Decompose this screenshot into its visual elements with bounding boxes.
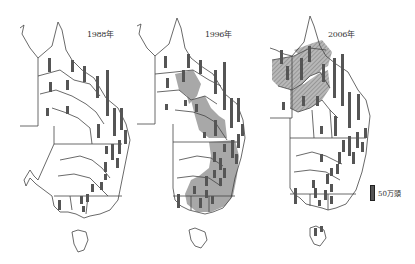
map-1988 <box>0 0 138 264</box>
year-label-2006: 2006年 <box>328 28 355 39</box>
map-panel-1988: 1988年 <box>0 0 138 264</box>
map-1996 <box>135 0 275 264</box>
year-label-1996: 1996年 <box>205 28 232 39</box>
legend-label: 50万頭 <box>378 188 401 198</box>
map-panel-2006: 2006年 <box>270 0 415 264</box>
legend: 50万頭 <box>370 185 401 201</box>
year-label-1988: 1988年 <box>87 28 114 39</box>
map-panel-1996: 1996年 <box>135 0 275 264</box>
map-2006 <box>270 0 415 264</box>
bar-symbol-icon <box>370 185 375 201</box>
